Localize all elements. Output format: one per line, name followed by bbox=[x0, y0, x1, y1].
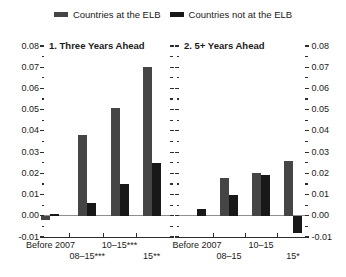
y-axis-tick bbox=[305, 152, 309, 153]
x-axis-tick bbox=[277, 233, 278, 237]
y-axis-minor-tick bbox=[177, 226, 180, 227]
figure: Countries at the ELB Countries not at th… bbox=[0, 0, 346, 277]
y-axis-minor-tick bbox=[177, 56, 180, 57]
bar-at-elb bbox=[284, 161, 293, 216]
y-axis-tick bbox=[175, 45, 179, 46]
y-axis-tick bbox=[175, 194, 179, 195]
y-axis-label: 0.07 bbox=[312, 63, 346, 72]
y-axis-tick bbox=[305, 109, 309, 110]
y-axis-tick bbox=[175, 173, 179, 174]
y-axis-minor-tick bbox=[305, 226, 308, 227]
category-label: 15* bbox=[286, 252, 300, 261]
category-label: 08–15 bbox=[216, 252, 241, 261]
bar-not-at-elb bbox=[229, 195, 238, 216]
y-axis-tick bbox=[305, 215, 309, 216]
y-axis-minor-tick bbox=[177, 205, 180, 206]
bar-at-elb bbox=[252, 173, 261, 215]
bar-not-at-elb bbox=[293, 216, 302, 233]
y-axis-minor-tick bbox=[177, 141, 180, 142]
y-axis-minor-tick bbox=[305, 141, 308, 142]
y-axis-tick bbox=[175, 152, 179, 153]
y-axis-minor-tick bbox=[177, 98, 180, 99]
y-axis-label: 0.04 bbox=[312, 126, 346, 135]
y-axis-minor-tick bbox=[305, 98, 308, 99]
y-axis-minor-tick bbox=[177, 120, 180, 121]
y-axis-minor-tick bbox=[305, 77, 308, 78]
y-axis-tick bbox=[175, 67, 179, 68]
y-axis-label: 0.08 bbox=[312, 42, 346, 51]
panel-five-plus-years-ahead: -0.010.000.010.020.030.040.050.060.070.0… bbox=[0, 0, 346, 277]
bar-at-elb bbox=[220, 178, 229, 216]
y-axis-minor-tick bbox=[177, 162, 180, 163]
y-axis-tick bbox=[175, 88, 179, 89]
y-axis-label: 0.06 bbox=[312, 84, 346, 93]
y-axis-tick bbox=[175, 130, 179, 131]
y-axis-label: 0.01 bbox=[312, 190, 346, 199]
y-axis-tick bbox=[305, 88, 309, 89]
y-axis-minor-tick bbox=[305, 162, 308, 163]
y-axis-minor-tick bbox=[305, 56, 308, 57]
y-axis-tick bbox=[305, 173, 309, 174]
x-axis-line bbox=[178, 237, 306, 239]
bar-not-at-elb bbox=[261, 175, 270, 215]
y-axis-tick bbox=[175, 215, 179, 216]
y-axis-label: 0.00 bbox=[312, 211, 346, 220]
y-axis-tick bbox=[305, 67, 309, 68]
x-axis-tick bbox=[213, 233, 214, 237]
y-axis-tick bbox=[175, 109, 179, 110]
y-axis-minor-tick bbox=[177, 77, 180, 78]
y-axis-label: 0.05 bbox=[312, 105, 346, 114]
bar-not-at-elb bbox=[197, 209, 206, 215]
category-label: 10–15 bbox=[248, 241, 273, 250]
y-axis-tick bbox=[305, 45, 309, 46]
y-axis-tick bbox=[305, 194, 309, 195]
y-axis-minor-tick bbox=[177, 183, 180, 184]
y-axis-minor-tick bbox=[305, 205, 308, 206]
category-label: Before 2007 bbox=[172, 241, 221, 250]
y-axis-label: 0.02 bbox=[312, 169, 346, 178]
y-axis-tick bbox=[305, 130, 309, 131]
y-axis-minor-tick bbox=[305, 183, 308, 184]
y-axis-label: -0.01 bbox=[312, 233, 346, 242]
y-axis-minor-tick bbox=[305, 120, 308, 121]
x-axis-tick bbox=[245, 233, 246, 237]
y-axis-label: 0.03 bbox=[312, 148, 346, 157]
